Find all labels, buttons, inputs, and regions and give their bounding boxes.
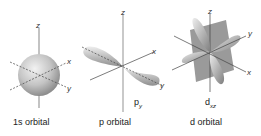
y-axis-label: y (248, 29, 252, 38)
x-axis-label: x (152, 47, 156, 56)
orbital-caption: 1s orbital (13, 117, 50, 127)
orbital-sublabel: dxz (205, 97, 216, 109)
x-axis-label: x (247, 68, 251, 77)
y-axis-label: y (160, 81, 164, 90)
sublabel-sub: y (139, 103, 142, 109)
p-orbital-graphic (80, 0, 180, 136)
sphere-orbital-graphic (0, 0, 85, 136)
orbital-d-panel: z y x dxz d orbital (170, 0, 261, 136)
y-axis-label: y (67, 84, 71, 93)
z-axis-label: z (36, 21, 40, 30)
orbital-caption: d orbital (190, 117, 222, 127)
z-axis-label: z (208, 7, 212, 16)
orbital-sublabel: py (134, 97, 142, 109)
x-axis-label: x (67, 57, 71, 66)
z-axis-label: z (121, 8, 125, 17)
sublabel-sub: xz (210, 103, 216, 109)
orbital-1s-panel: z x y 1s orbital (0, 0, 85, 136)
orbital-caption: p orbital (99, 117, 131, 127)
orbital-p-panel: z x y py p orbital (80, 0, 180, 136)
